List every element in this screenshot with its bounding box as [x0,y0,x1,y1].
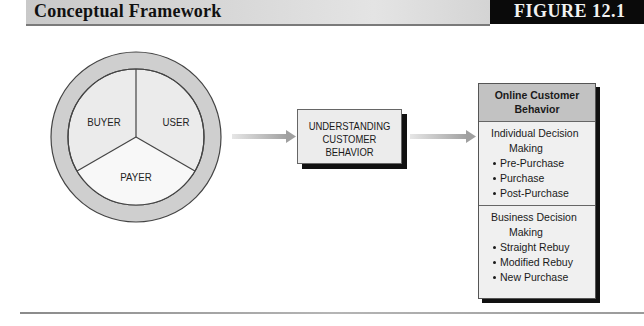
arrow-right-icon [410,130,476,143]
understanding-customer-behavior-box: UNDERSTANDING CUSTOMER BEHAVIOR [297,109,402,164]
wheel-label-payer: PAYER [110,171,163,183]
individual-decision-section: Individual Decision Making Pre-Purchase … [479,122,595,206]
wheel-label-buyer: BUYER [78,116,131,128]
bullet-icon [493,177,496,180]
list-item: Pre-Purchase [479,156,595,171]
list-item: Purchase [479,171,595,186]
online-customer-behavior-box: Online Customer Behavior Individual Deci… [478,83,596,299]
bullet-icon [493,261,496,264]
right-box-title-line: Behavior [479,102,595,116]
list-item-label: Post-Purchase [500,187,569,199]
bullet-icon [493,246,496,249]
list-item: Modified Rebuy [479,255,595,270]
bullet-icon [493,192,496,195]
right-box-title: Online Customer Behavior [479,88,595,116]
list-item-label: Pre-Purchase [500,157,564,169]
right-box-header: Online Customer Behavior [479,84,595,122]
center-box-text: UNDERSTANDING CUSTOMER BEHAVIOR [303,120,396,159]
list-item-label: Purchase [500,172,544,184]
role-wheel [51,52,221,222]
center-box-line: UNDERSTANDING [303,120,396,133]
section-items: Straight Rebuy Modified Rebuy New Purcha… [479,240,595,285]
section-title: Making [479,141,595,156]
list-item-label: New Purchase [500,271,568,283]
list-item-label: Modified Rebuy [500,256,573,268]
wheel-label-user: USER [150,116,203,128]
list-item-label: Straight Rebuy [500,241,569,253]
section-items: Pre-Purchase Purchase Post-Purchase [479,156,595,201]
arrow-right-icon [232,130,296,143]
section-title: Making [479,225,595,240]
right-box-title-line: Online Customer [479,88,595,102]
center-box-line: BEHAVIOR [303,146,396,159]
list-item: Straight Rebuy [479,240,595,255]
list-item: Post-Purchase [479,186,595,201]
bottom-divider [20,312,644,314]
business-decision-section: Business Decision Making Straight Rebuy … [479,206,595,298]
bullet-icon [493,276,496,279]
bullet-icon [493,162,496,165]
center-box-line: CUSTOMER [303,133,396,146]
list-item: New Purchase [479,270,595,285]
section-title: Business Decision [479,210,595,225]
section-title: Individual Decision [479,126,595,141]
